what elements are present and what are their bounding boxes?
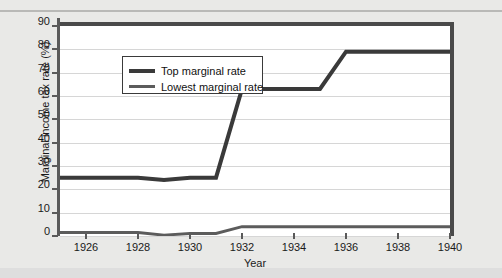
y-axis-tick-mark: [52, 48, 58, 50]
chart-page: 0102030405060708090 Marginal income tax …: [0, 0, 502, 278]
x-axis-title: Year: [60, 257, 450, 269]
y-axis-tick-mark: [52, 165, 58, 167]
y-axis-tick-label: 90: [38, 16, 50, 27]
x-axis-tick-label: 1938: [386, 241, 410, 253]
x-axis-tick-label: 1936: [334, 241, 358, 253]
x-axis-tick-label: 1926: [74, 241, 98, 253]
x-axis-tick-labels: 19261928193019321934193619381940: [60, 241, 450, 255]
line-lowest-marginal-rate: [60, 227, 450, 235]
x-axis-tick-label: 1940: [438, 241, 462, 253]
y-axis-tick-mark: [52, 25, 58, 27]
y-axis-title: Marginal income tax rate (%): [39, 37, 51, 187]
page-bottom-shade: [0, 268, 502, 278]
page-top-rule: [0, 10, 502, 12]
legend-swatch: [129, 69, 155, 73]
y-axis-tick-mark: [52, 212, 58, 214]
y-axis-tick-mark: [52, 95, 58, 97]
chart-legend: Top marginal rateLowest marginal rate: [122, 56, 263, 94]
legend-swatch: [129, 85, 155, 88]
y-axis-tick-mark: [52, 72, 58, 74]
legend-item: Lowest marginal rate: [129, 79, 263, 94]
y-axis-title-wrap: Marginal income tax rate (%): [22, 22, 36, 232]
legend-label: Top marginal rate: [161, 65, 246, 77]
x-axis-tick-label: 1932: [230, 241, 254, 253]
plot-area: Top marginal rateLowest marginal rate: [60, 22, 454, 236]
legend-label: Lowest marginal rate: [161, 81, 263, 93]
y-axis-tick-mark: [52, 142, 58, 144]
y-axis-tick-label: 0: [44, 226, 50, 237]
x-axis-tick-label: 1928: [126, 241, 150, 253]
legend-item: Top marginal rate: [129, 63, 246, 78]
x-axis-tick-label: 1934: [282, 241, 306, 253]
x-axis-tick-label: 1930: [178, 241, 202, 253]
y-axis-tick-label: 10: [38, 203, 50, 214]
y-axis-tick-mark: [52, 235, 58, 237]
y-axis-tick-mark: [52, 118, 58, 120]
y-axis-tick-mark: [52, 188, 58, 190]
